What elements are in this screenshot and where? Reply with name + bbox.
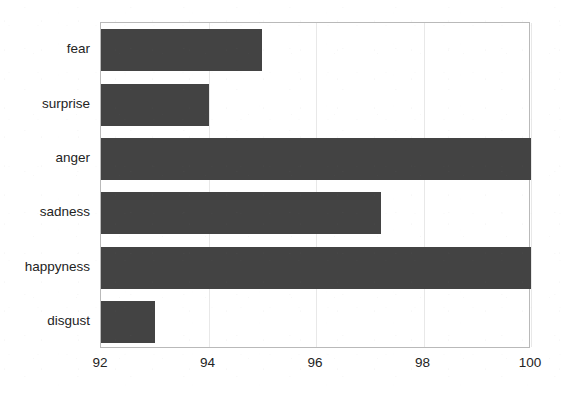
bar-track [101,192,531,234]
bar-anger[interactable] [101,138,531,180]
y-tick-label-happyness: happyness [0,260,90,274]
x-tick-label-94: 94 [178,356,238,370]
bar-sadness[interactable] [101,192,381,234]
x-tick-label-96: 96 [285,356,345,370]
y-tick-label-sadness: sadness [0,205,90,219]
bar-happyness[interactable] [101,247,531,289]
bar-fear[interactable] [101,29,262,71]
x-tick-label-98: 98 [393,356,453,370]
gridline-x-100 [531,23,532,347]
bar-surprise[interactable] [101,84,209,126]
y-tick-label-anger: anger [0,151,90,165]
gridline-x-96 [316,23,317,347]
y-tick-label-fear: fear [0,42,90,56]
bar-track [101,138,531,180]
y-tick-label-disgust: disgust [0,314,90,328]
gridline-x-94 [209,23,210,347]
x-tick-label-92: 92 [70,356,130,370]
bar-disgust[interactable] [101,301,155,343]
y-tick-label-surprise: surprise [0,97,90,111]
bar-chart-figure: fearsurpriseangersadnesshappynessdisgust… [0,0,562,393]
bar-track [101,301,531,343]
bar-track [101,84,531,126]
gridline-x-98 [424,23,425,347]
bar-track [101,247,531,289]
bar-track [101,29,531,71]
x-tick-label-100: 100 [500,356,560,370]
plot-area [100,22,530,348]
